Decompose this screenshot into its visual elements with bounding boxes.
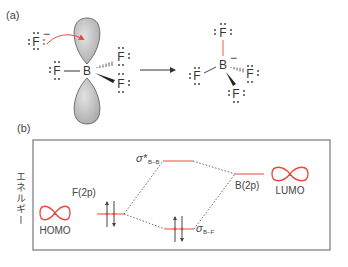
atom-f-lower-right: F [117, 77, 124, 91]
panel-a: (a) F − B F F [6, 9, 259, 124]
sigma-star-label: σ* [136, 152, 148, 164]
correlation-f2p-to-sigma [124, 214, 165, 229]
attacking-lone-pair [43, 39, 45, 45]
tetrafluoroborate-product: F B − F [189, 23, 259, 103]
f2p-label: F(2p) [72, 187, 96, 198]
homo-orbital-icon [40, 206, 70, 220]
p-orbital-upper-lobe [74, 18, 100, 64]
lumo-orbital-icon [272, 167, 308, 181]
hashed-wedge-bond [97, 62, 112, 69]
atom-f-left: F [53, 64, 60, 78]
solid-wedge-bond [95, 73, 115, 83]
correlation-sigma-star-to-b2p [193, 161, 235, 174]
atom-f-upper-right: F [117, 50, 124, 64]
sigma-subscript: B−F [203, 229, 215, 235]
panel-b: (b) エネルギー HOMO F(2p) σ* B−B B(2p) LUMO [15, 122, 331, 250]
correlation-lines [124, 161, 235, 229]
charge-minus: − [43, 27, 50, 41]
charge-minus-b: − [230, 51, 237, 65]
b2p-label: B(2p) [235, 180, 259, 191]
p-orbital-lower-lobe [74, 78, 100, 124]
fluoride-nucleophile: F − [28, 27, 50, 50]
y-axis-energy-label: エネルギー [15, 171, 26, 226]
diagram-canvas: (a) F − B F F [0, 0, 348, 267]
panel-a-label: (a) [6, 9, 19, 21]
correlation-sigma-to-b2p [194, 174, 235, 229]
bond-b-f-left-product [204, 67, 216, 73]
atom-b-product: B [219, 58, 227, 72]
correlation-f2p-to-sigma-star [124, 161, 163, 214]
solid-wedge-bond-product [226, 72, 236, 86]
atom-f-top: F [219, 26, 226, 40]
sigma-star-subscript: B−B [148, 159, 160, 165]
atom-f-bottom-product: F [232, 87, 239, 101]
atom-f-nucleophile: F [32, 35, 39, 49]
homo-label: HOMO [39, 225, 70, 236]
atom-b: B [83, 64, 91, 78]
atom-f-right-product: F [246, 67, 253, 81]
atom-f-left-product: F [193, 69, 200, 83]
panel-b-label: (b) [17, 122, 30, 134]
lumo-label: LUMO [276, 185, 305, 196]
sigma-label: σ [196, 222, 203, 234]
hashed-wedge-bond-product [231, 67, 243, 73]
